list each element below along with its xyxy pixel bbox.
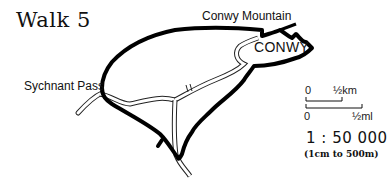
- walk-map: Walk 5 Co: [0, 0, 389, 178]
- scale-mile-half: ½ml: [352, 110, 373, 122]
- scale-ratio: 1 : 50 000: [306, 129, 388, 147]
- label-conwy: CONWY: [254, 39, 309, 55]
- label-conwy-mountain: Conwy Mountain: [202, 9, 291, 23]
- scale-km-zero: 0: [305, 84, 311, 96]
- label-sychnant-pass: Sychnant Pass: [24, 79, 104, 93]
- scale-km-half: ½km: [333, 84, 357, 96]
- scale-ratio-note: (1cm to 500m): [304, 149, 379, 159]
- scale-mile-zero: 0: [304, 110, 310, 122]
- scale-bars: [306, 97, 362, 108]
- roads: [78, 38, 258, 176]
- direction-arrow-icon: [280, 24, 296, 30]
